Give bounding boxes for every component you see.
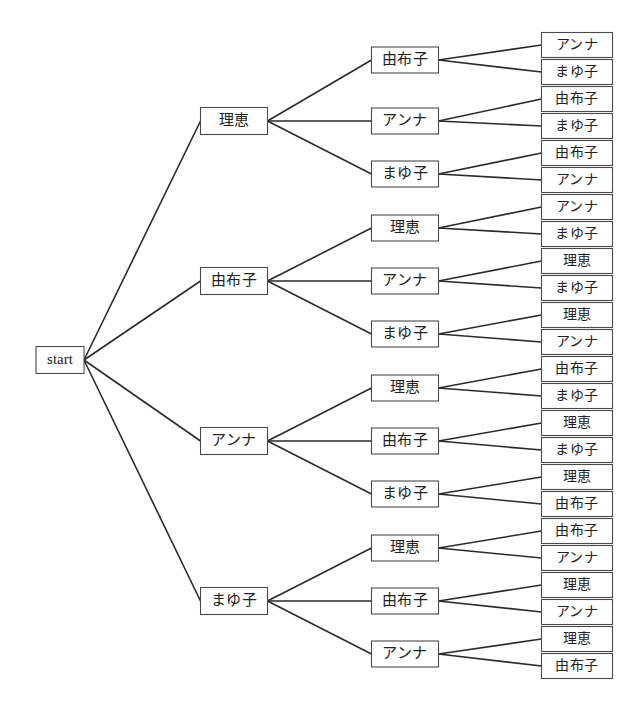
edge-level2-0-2-to-leaf-0 — [439, 153, 542, 174]
tree-node-leaf-0-2-0[interactable]: 由布子 — [542, 141, 613, 166]
tree-node-leaf-0-0-1[interactable]: まゆ子 — [542, 60, 613, 85]
tree-node-leaf-2-0-0[interactable]: 由布子 — [542, 357, 613, 382]
tree-node-level1-3[interactable]: まゆ子 — [201, 588, 268, 615]
edge-level2-1-1-to-leaf-1 — [439, 281, 542, 288]
edge-level1-3-to-level2-2 — [268, 601, 372, 654]
tree-node-level2-1-2[interactable]: まゆ子 — [372, 321, 439, 347]
tree-node-leaf-2-2-1[interactable]: 由布子 — [542, 492, 613, 517]
tree-node-leaf-1-2-1-label: アンナ — [556, 334, 599, 349]
tree-node-leaf-2-2-0[interactable]: 理恵 — [542, 465, 613, 490]
edge-level2-3-1-to-leaf-0 — [439, 585, 542, 601]
tree-node-leaf-3-2-1-label: 由布子 — [555, 658, 599, 673]
tree-node-level2-3-2[interactable]: アンナ — [372, 641, 439, 667]
tree-node-start-label: start — [47, 351, 74, 367]
edge-level2-0-2-to-leaf-1 — [439, 174, 542, 180]
edge-level1-1-to-level2-0 — [268, 228, 372, 281]
tree-node-level2-1-1-label: アンナ — [382, 272, 428, 288]
tree-node-leaf-1-2-1[interactable]: アンナ — [542, 330, 613, 355]
tree-node-leaf-2-0-1-label: まゆ子 — [555, 388, 599, 403]
edge-level2-1-2-to-leaf-1 — [439, 334, 542, 342]
edge-root-to-level1-3 — [84, 360, 201, 601]
tree-node-leaf-0-2-1-label: アンナ — [556, 172, 599, 187]
edge-level2-2-0-to-leaf-1 — [439, 388, 542, 396]
tree-node-level2-3-0[interactable]: 理恵 — [372, 535, 439, 561]
edge-level1-0-to-level2-0 — [268, 60, 372, 121]
edge-level2-2-1-to-leaf-1 — [439, 441, 542, 450]
tree-node-leaf-3-2-0[interactable]: 理恵 — [542, 627, 613, 652]
tree-node-leaf-3-2-0-label: 理恵 — [563, 631, 592, 646]
tree-node-leaf-3-0-0-label: 由布子 — [555, 523, 599, 538]
tree-node-level2-1-1[interactable]: アンナ — [372, 268, 439, 294]
tree-node-level2-2-0[interactable]: 理恵 — [372, 375, 439, 401]
tree-node-level1-0[interactable]: 理恵 — [201, 108, 268, 135]
tree-node-leaf-0-2-0-label: 由布子 — [555, 145, 599, 160]
tree-node-leaf-2-0-0-label: 由布子 — [555, 361, 599, 376]
tree-node-level2-0-1-label: アンナ — [382, 112, 428, 128]
edge-level2-2-1-to-leaf-0 — [439, 423, 542, 441]
tree-node-leaf-2-1-1-label: まゆ子 — [555, 442, 599, 457]
tree-node-level2-2-1[interactable]: 由布子 — [372, 428, 439, 454]
tree-node-level1-1[interactable]: 由布子 — [201, 268, 268, 295]
tree-node-leaf-1-1-1[interactable]: まゆ子 — [542, 276, 613, 301]
tree-node-level2-0-1[interactable]: アンナ — [372, 108, 439, 134]
tree-node-leaf-1-0-1[interactable]: まゆ子 — [542, 222, 613, 247]
tree-node-leaf-3-0-1[interactable]: アンナ — [542, 546, 613, 571]
tree-node-level2-2-2-label: まゆ子 — [382, 485, 429, 501]
tree-node-level2-3-1-label: 由布子 — [382, 592, 429, 608]
tree-node-level2-0-0[interactable]: 由布子 — [372, 47, 439, 73]
tree-node-leaf-0-0-1-label: まゆ子 — [555, 64, 599, 79]
tree-node-leaf-1-0-1-label: まゆ子 — [555, 226, 599, 241]
tree-node-level2-3-2-label: アンナ — [382, 645, 428, 661]
tree-node-leaf-1-1-0-label: 理恵 — [563, 253, 592, 268]
tree-node-leaf-2-1-0-label: 理恵 — [563, 415, 592, 430]
tree-node-level2-3-1[interactable]: 由布子 — [372, 588, 439, 614]
tree-node-level2-0-2-label: まゆ子 — [382, 165, 429, 181]
tree-node-leaf-3-1-0-label: 理恵 — [563, 577, 592, 592]
tree-node-level1-3-label: まゆ子 — [211, 592, 258, 608]
edge-root-to-level1-1 — [84, 281, 201, 360]
tree-node-leaf-3-0-0[interactable]: 由布子 — [542, 519, 613, 544]
tree-node-leaf-2-1-0[interactable]: 理恵 — [542, 411, 613, 436]
tree-node-leaf-2-1-1[interactable]: まゆ子 — [542, 438, 613, 463]
tree-node-leaf-1-2-0[interactable]: 理恵 — [542, 303, 613, 328]
tree-node-leaf-3-1-1-label: アンナ — [556, 604, 599, 619]
tree-node-leaf-1-2-0-label: 理恵 — [563, 307, 592, 322]
edge-root-to-level1-2 — [84, 360, 201, 441]
edge-level2-3-0-to-leaf-0 — [439, 531, 542, 548]
tree-node-level2-1-0[interactable]: 理恵 — [372, 215, 439, 241]
tree-node-leaf-3-1-1[interactable]: アンナ — [542, 600, 613, 625]
edge-level2-0-0-to-leaf-0 — [439, 45, 542, 60]
tree-node-leaf-1-0-0-label: アンナ — [556, 199, 599, 214]
tree-node-leaf-0-0-0-label: アンナ — [556, 37, 599, 52]
edge-level2-3-1-to-leaf-1 — [439, 601, 542, 612]
edge-level1-1-to-level2-2 — [268, 281, 372, 334]
edge-level1-3-to-level2-0 — [268, 548, 372, 601]
tree-node-leaf-1-1-0[interactable]: 理恵 — [542, 249, 613, 274]
tree-node-leaf-0-1-0[interactable]: 由布子 — [542, 87, 613, 112]
tree-node-start[interactable]: start — [36, 347, 84, 374]
tree-node-leaf-3-0-1-label: アンナ — [556, 550, 599, 565]
tree-node-leaf-0-1-1[interactable]: まゆ子 — [542, 114, 613, 139]
edge-level1-0-to-level2-2 — [268, 121, 372, 174]
tree-node-leaf-3-1-0[interactable]: 理恵 — [542, 573, 613, 598]
edge-level2-2-2-to-leaf-1 — [439, 494, 542, 504]
nodes-layer: start理恵由布子アンナまゆ子アンナ由布子まゆ子まゆ子由布子アンナ由布子理恵ア… — [36, 33, 613, 679]
tree-node-level2-2-2[interactable]: まゆ子 — [372, 481, 439, 507]
edge-level2-3-2-to-leaf-1 — [439, 654, 542, 666]
tree-node-level1-0-label: 理恵 — [219, 112, 250, 128]
tree-node-level1-2-label: アンナ — [211, 432, 257, 448]
tree-node-leaf-2-0-1[interactable]: まゆ子 — [542, 384, 613, 409]
tree-node-leaf-2-2-0-label: 理恵 — [563, 469, 592, 484]
tree-node-leaf-3-2-1[interactable]: 由布子 — [542, 654, 613, 679]
edge-level1-2-to-level2-0 — [268, 388, 372, 441]
tree-node-level2-2-0-label: 理恵 — [390, 379, 421, 395]
edge-level2-1-2-to-leaf-0 — [439, 315, 542, 334]
tree-node-leaf-0-2-1[interactable]: アンナ — [542, 168, 613, 193]
tree-node-leaf-2-2-1-label: 由布子 — [555, 496, 599, 511]
tree-node-level1-2[interactable]: アンナ — [201, 428, 268, 455]
tree-node-leaf-0-0-0[interactable]: アンナ — [542, 33, 613, 58]
tree-node-level2-1-2-label: まゆ子 — [382, 325, 429, 341]
tree-node-level2-0-2[interactable]: まゆ子 — [372, 161, 439, 187]
tree-node-leaf-0-1-0-label: 由布子 — [555, 91, 599, 106]
tree-node-leaf-1-0-0[interactable]: アンナ — [542, 195, 613, 220]
